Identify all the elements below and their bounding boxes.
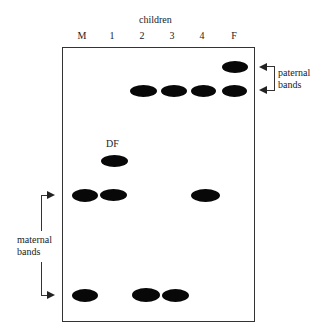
df-label: DF [106, 138, 119, 149]
band-4-maternal-top [191, 189, 220, 202]
maternal-label: maternal bands [17, 234, 52, 258]
children-title: children [139, 14, 172, 25]
band-m-maternal-top [72, 189, 98, 202]
band-f-paternal-common [222, 85, 247, 97]
band-1-df [101, 155, 128, 167]
maternal-line-bottom [41, 262, 42, 296]
lane-label-1: 1 [104, 30, 120, 41]
lane-label-m: M [74, 30, 90, 41]
maternal-bottom-arrow-icon [47, 291, 55, 299]
band-1-maternal-top [100, 189, 127, 201]
band-3-paternal-common [161, 85, 187, 97]
lane-label-f: F [226, 30, 242, 41]
maternal-line-top [41, 195, 42, 231]
band-m-maternal-bottom [72, 289, 98, 302]
band-4-paternal-common [191, 85, 216, 97]
band-f-paternal-top [222, 61, 248, 73]
paternal-bottom-arrow-icon [259, 86, 267, 94]
maternal-top-arrow-icon [47, 191, 55, 199]
paternal-top-arrow-icon [259, 63, 267, 71]
band-3-maternal-bottom [162, 289, 189, 302]
lane-label-3: 3 [164, 30, 180, 41]
band-2-maternal-bottom [132, 288, 160, 302]
lane-label-4: 4 [194, 30, 210, 41]
paternal-label: paternal bands [278, 67, 310, 91]
paternal-bracket-vertical [274, 66, 275, 91]
band-2-paternal-common [130, 85, 157, 97]
lane-label-2: 2 [134, 30, 150, 41]
